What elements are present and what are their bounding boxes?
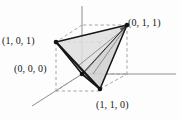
vertex-label-101: (1, 0, 1) xyxy=(2,36,35,46)
vertex-label-011: (0, 1, 1) xyxy=(128,18,161,28)
vertex-label-110: (1, 1, 0) xyxy=(96,100,129,110)
vertex-dot-000 xyxy=(80,72,85,77)
vertex-dot-110 xyxy=(98,87,103,92)
geometry-figure: (1, 0, 1) (0, 1, 1) (0, 0, 0) (1, 1, 0) xyxy=(0,0,180,120)
vertex-label-000: (0, 0, 0) xyxy=(14,64,47,74)
vertex-dot-101 xyxy=(54,40,59,45)
